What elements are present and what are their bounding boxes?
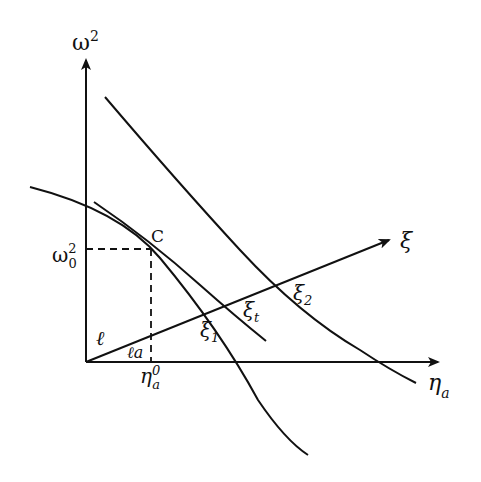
xi2-label: ξ2 <box>293 281 312 308</box>
omega0-squared-label: ω20 <box>52 241 77 271</box>
xit-label: ξt <box>243 298 260 325</box>
eta-a0-label: η0a <box>140 363 160 392</box>
point-c-label: C <box>151 226 164 246</box>
diagram-canvas: ω2 ηa ξ C ω20 η0a ℓ ℓa ξ1 ξt ξ2 <box>0 0 481 482</box>
angle-label-l: ℓ <box>96 326 105 350</box>
y-axis-label: ω2 <box>72 28 99 55</box>
curve-xi1 <box>30 187 308 455</box>
xi1-label: ξ1 <box>200 318 219 345</box>
xi-ray-label: ξ <box>400 228 414 253</box>
x-axis-label: ηa <box>428 370 450 401</box>
angle-label-la: ℓa <box>127 343 143 362</box>
